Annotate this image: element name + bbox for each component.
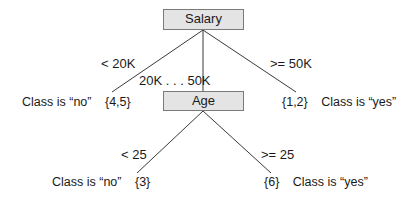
node-age: Age	[163, 91, 244, 111]
edge-label-20k-50k: 20K . . . 50K	[139, 74, 211, 88]
edge-label-lt-20k: < 20K	[101, 57, 135, 71]
leaf-salary-low-set: {4,5}	[105, 95, 131, 109]
edge-label-lt-25: < 25	[121, 148, 147, 162]
leaf-age-low: Class is “no” {3}	[52, 175, 150, 189]
edge-label-ge-50k: >= 50K	[270, 57, 312, 71]
leaf-salary-high-set: {1,2}	[282, 95, 308, 109]
edge-age-ge-25	[203, 111, 271, 173]
leaf-age-high-set: {6}	[264, 175, 279, 189]
node-salary: Salary	[163, 9, 244, 30]
node-salary-label: Salary	[185, 11, 222, 26]
leaf-salary-low: Class is “no” {4,5}	[22, 95, 131, 109]
leaf-age-low-set: {3}	[135, 175, 150, 189]
edge-label-ge-25: >= 25	[261, 148, 294, 162]
leaf-salary-low-class: Class is “no”	[22, 95, 91, 109]
leaf-salary-high: {1,2} Class is “yes”	[282, 95, 396, 109]
leaf-age-high: {6} Class is “yes”	[264, 175, 368, 189]
leaf-age-low-class: Class is “no”	[52, 175, 121, 189]
leaf-age-high-class: Class is “yes”	[293, 175, 368, 189]
node-age-label: Age	[192, 93, 215, 108]
edge-age-lt-25	[137, 111, 203, 173]
leaf-salary-high-class: Class is “yes”	[321, 95, 396, 109]
